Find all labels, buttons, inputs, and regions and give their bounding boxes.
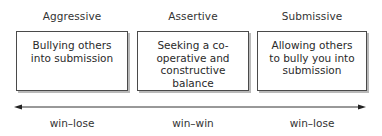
box-submissive: Allowing others to bully you into submis… (257, 31, 367, 91)
outcome-assertive: win–win (137, 117, 249, 129)
box-assertive: Seeking a co-operative and constructive … (137, 31, 249, 91)
heading-submissive: Submissive (257, 10, 367, 22)
double-arrow-icon (14, 102, 366, 112)
heading-assertive: Assertive (137, 10, 249, 22)
outcome-submissive: win–lose (257, 117, 367, 129)
heading-aggressive: Aggressive (16, 10, 128, 22)
box-aggressive: Bullying others into submission (16, 31, 128, 91)
outcome-aggressive: win–lose (16, 117, 128, 129)
